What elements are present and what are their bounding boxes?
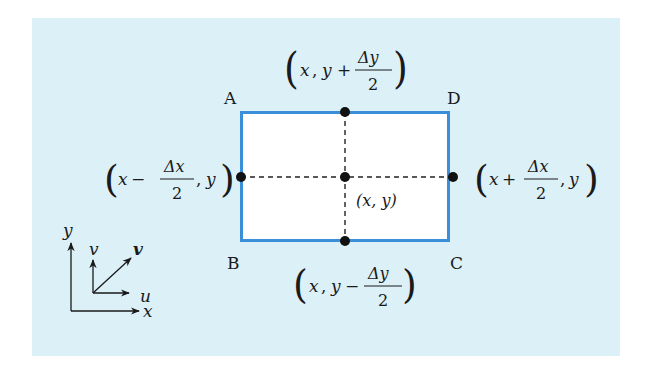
svg-text:x: x (489, 169, 499, 189)
svg-text:y: y (330, 276, 341, 296)
y-axis-label: y (62, 220, 73, 240)
svg-text:): ) (402, 261, 417, 307)
svg-text:x: x (118, 169, 128, 189)
svg-text:−: − (131, 169, 145, 189)
svg-text:+: + (502, 169, 516, 189)
svg-text:y: y (568, 169, 579, 189)
svg-text:): ) (584, 157, 599, 201)
svg-text:Δx: Δx (163, 157, 185, 176)
svg-text:(: ( (474, 157, 489, 201)
svg-text:2: 2 (368, 75, 378, 94)
svg-text:): ) (220, 157, 235, 201)
svg-text:,: , (196, 169, 201, 189)
v-label: v (89, 239, 99, 259)
svg-text:x: x (309, 276, 319, 296)
svg-text:2: 2 (172, 184, 182, 203)
bottom-midpoint-dot (340, 236, 350, 246)
svg-text:Δy: Δy (367, 264, 390, 283)
corner-label-b: B (227, 253, 240, 273)
svg-text:,: , (312, 60, 317, 80)
svg-text:y: y (205, 169, 216, 189)
corner-label-c: C (450, 253, 463, 273)
corner-label-a: A (223, 88, 237, 108)
svg-text:): ) (393, 42, 408, 93)
svg-text:2: 2 (378, 291, 388, 310)
center-dot (340, 172, 350, 182)
left-midpoint-dot (236, 172, 246, 182)
svg-text:x: x (300, 60, 310, 80)
svg-text:(: ( (293, 261, 308, 307)
corner-label-d: D (447, 88, 461, 108)
top-midpoint-dot (340, 107, 350, 117)
svg-text:,: , (321, 276, 326, 296)
svg-text:+: + (337, 60, 351, 80)
svg-text:Δx: Δx (527, 157, 549, 176)
u-label: u (140, 286, 151, 306)
right-midpoint-dot (448, 172, 458, 182)
svg-text:(: ( (284, 42, 299, 93)
center-point-label: (x, y) (356, 191, 397, 210)
svg-text:Δy: Δy (357, 48, 380, 67)
velocity-vector-label: v (133, 239, 144, 259)
svg-text:(: ( (104, 157, 119, 201)
svg-text:y: y (321, 60, 332, 80)
diagram-canvas: A D B C (x, y) ( x , y + Δy 2 ) ( x , y … (0, 0, 647, 369)
svg-text:2: 2 (536, 184, 546, 203)
svg-text:,: , (560, 169, 565, 189)
svg-text:−: − (345, 276, 359, 296)
